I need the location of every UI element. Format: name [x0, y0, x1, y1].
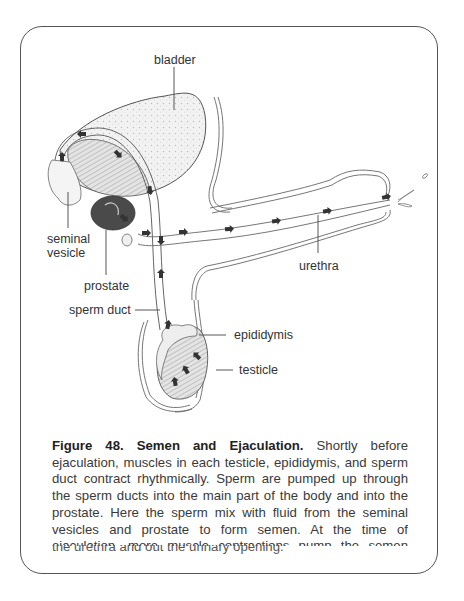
prostate-shape [91, 196, 135, 246]
caption-last-line-clip: the urethra and out the urinary opening. [52, 545, 408, 555]
testicle-shape [157, 325, 208, 399]
label-prostate: prostate [84, 279, 129, 293]
caption-last-line: the urethra and out the urinary opening. [52, 545, 408, 555]
caption-body: Shortly before ejaculation, muscles in e… [52, 438, 408, 546]
label-bladder: bladder [154, 53, 196, 67]
caption-title: Figure 48. Semen and Ejaculation. [52, 438, 303, 453]
droplets [398, 173, 428, 207]
label-sperm-duct: sperm duct [69, 303, 131, 317]
figure-caption: Figure 48. Semen and Ejaculation. Shortl… [52, 438, 408, 546]
label-seminal-vesicle-1: seminal [47, 232, 90, 246]
label-epididymis: epididymis [234, 328, 293, 342]
label-seminal-vesicle-2: vesicle [47, 246, 85, 260]
label-testicle: testicle [239, 363, 278, 377]
anatomy-diagram [0, 0, 464, 430]
label-urethra: urethra [299, 259, 339, 273]
